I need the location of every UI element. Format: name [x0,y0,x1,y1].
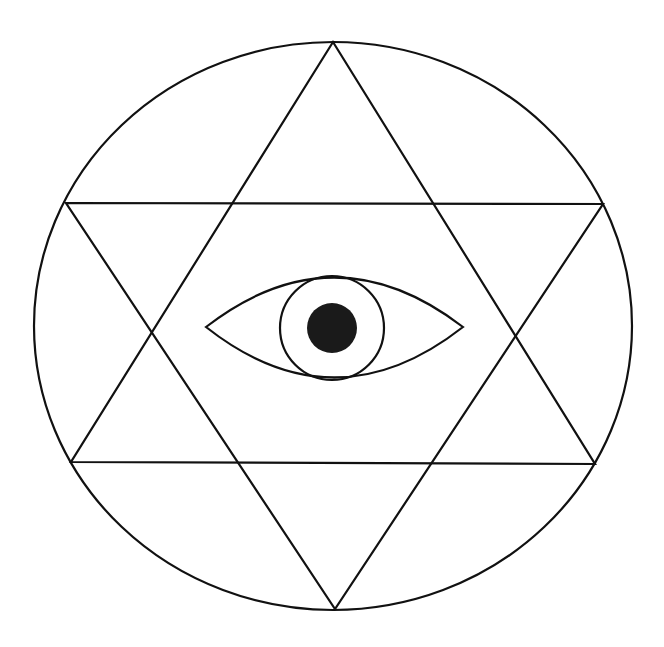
pupil [307,303,357,353]
figure-canvas [0,0,664,647]
hexagram-eye-figure: Eye within hexagram within circle [0,0,664,647]
